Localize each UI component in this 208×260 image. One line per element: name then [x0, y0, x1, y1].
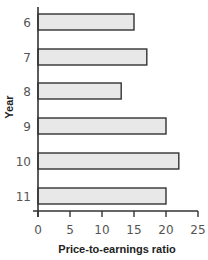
y-tick-label: 10 — [16, 155, 31, 169]
x-ticks: 0510152025 — [34, 211, 205, 237]
x-tick-label: 20 — [158, 223, 173, 237]
bar-year-6 — [38, 14, 134, 30]
y-tick-label: 11 — [16, 190, 31, 204]
y-tick-label: 7 — [23, 51, 31, 65]
y-tick-label: 6 — [23, 16, 31, 30]
y-tick-label: 8 — [23, 85, 31, 99]
bar-year-7 — [38, 49, 147, 65]
y-tick-label: 9 — [23, 120, 31, 134]
y-axis-title: Year — [3, 95, 15, 119]
bar-year-8 — [38, 83, 121, 99]
bar-year-10 — [38, 153, 179, 169]
y-tick-labels: 67891011 — [16, 16, 31, 204]
bar-year-11 — [38, 188, 166, 204]
x-tick-label: 5 — [66, 223, 74, 237]
x-tick-label: 25 — [190, 223, 205, 237]
bar-year-9 — [38, 118, 166, 134]
x-tick-label: 15 — [126, 223, 141, 237]
x-tick-label: 0 — [34, 223, 42, 237]
bar-chart: 67891011 0510152025 Price-to-earnings ra… — [0, 0, 208, 260]
x-tick-label: 10 — [94, 223, 109, 237]
bars — [38, 14, 179, 204]
x-axis-title: Price-to-earnings ratio — [58, 243, 176, 255]
